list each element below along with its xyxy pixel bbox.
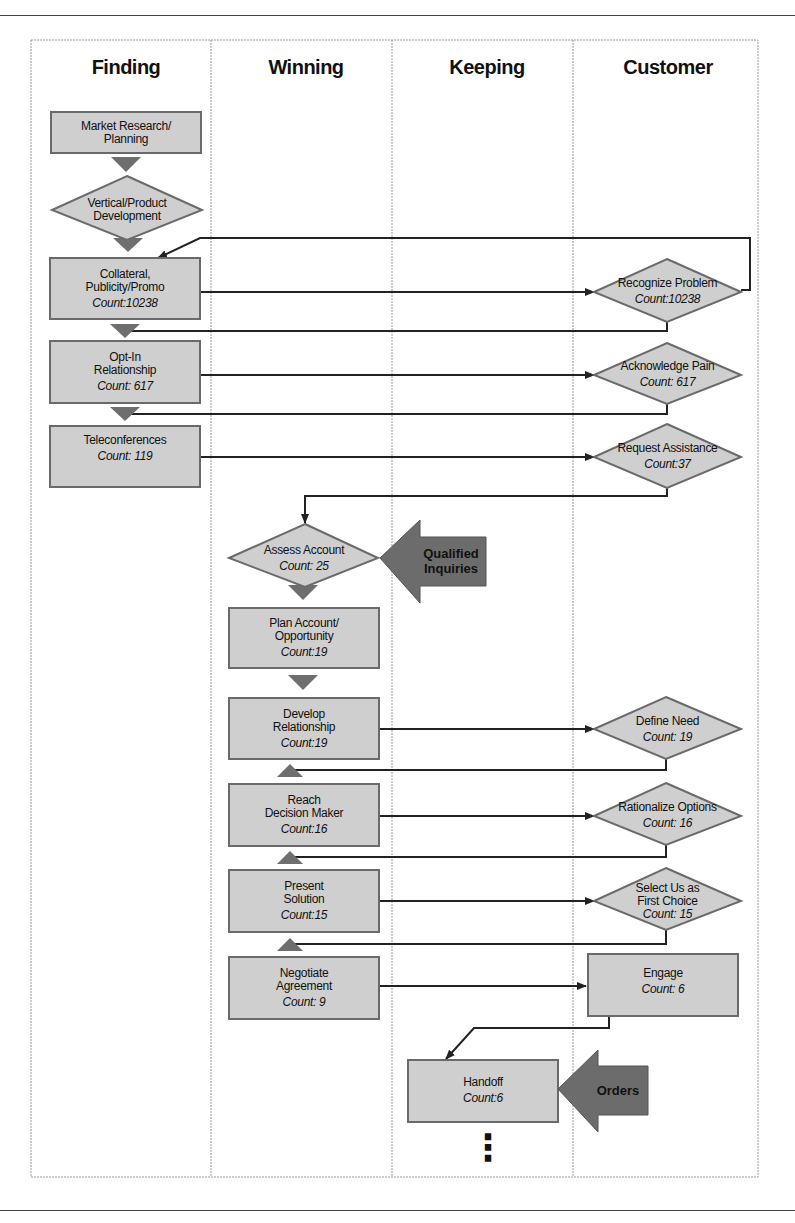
lane-title-finding: Finding: [36, 56, 216, 79]
count-value: Count:15: [281, 909, 327, 922]
count-value: Count: 617: [640, 376, 696, 389]
callout-orders-label: Orders: [590, 1083, 646, 1098]
lane-title-customer: Customer: [578, 56, 758, 79]
count-value: Count: 16: [643, 817, 692, 830]
count-value: Count:19: [281, 737, 327, 750]
count-value: Count:6: [463, 1092, 503, 1105]
count-value: Count:37: [644, 458, 690, 471]
node-define-need-label: Define Need Count: 19: [594, 712, 741, 746]
count-value: Count: 19: [643, 731, 692, 744]
node-recognize-problem-label: Recognize Problem Count:10238: [594, 274, 741, 308]
count-value: Count: 25: [279, 560, 328, 573]
node-vertical-product-label: Vertical/Product Development: [52, 193, 202, 227]
count-value: Count:19: [281, 646, 327, 659]
node-develop-relationship-label: Develop Relationship Count:19: [229, 698, 379, 759]
node-present-solution-label: Present Solution Count:15: [229, 870, 379, 932]
flow-define-to-reach: [290, 759, 666, 770]
node-request-assistance-label: Request Assistance Count:37: [594, 439, 741, 473]
node-market-research-label: Market Research/ Planning: [51, 112, 201, 153]
count-value: Count: 119: [98, 450, 153, 463]
triangle-down-icon: [111, 157, 141, 172]
node-rationalize-options-label: Rationalize Options Count: 16: [594, 798, 741, 832]
continuation-ellipsis-icon: ⋮: [470, 1128, 486, 1168]
node-opt-in-label: Opt-In Relationship Count: 617: [50, 341, 200, 403]
node-negotiate-agreement-label: Negotiate Agreement Count: 9: [229, 957, 379, 1019]
count-value: Count: 6: [642, 983, 685, 996]
node-acknowledge-pain-label: Acknowledge Pain Count: 617: [594, 357, 741, 391]
node-collateral-label: Collateral, Publicity/Promo Count:10238: [50, 258, 200, 319]
node-engage-label: Engage Count: 6: [588, 954, 738, 1008]
flow-request-to-assess: [305, 488, 667, 523]
node-select-us-label: Select Us as First Choice Count: 15: [594, 879, 741, 923]
flow-acknowledge-to-tele: [128, 404, 667, 414]
flow-engage-to-handoff: [446, 1016, 609, 1059]
node-assess-account-label: Assess Account Count: 25: [229, 541, 379, 575]
count-value: Count:10238: [92, 297, 157, 310]
node-reach-decision-maker-label: Reach Decision Maker Count:16: [229, 784, 379, 846]
count-value: Count: 9: [283, 996, 326, 1009]
node-teleconferences-label: Teleconferences Count: 119: [50, 426, 200, 470]
callout-qualified-inquiries-label: Qualified Inquiries: [418, 546, 484, 576]
count-value: Count:10238: [635, 293, 700, 306]
lane-title-keeping: Keeping: [397, 56, 577, 79]
node-plan-account-label: Plan Account/ Opportunity Count:19: [229, 608, 379, 668]
lane-title-winning: Winning: [216, 56, 396, 79]
flow-recognize-to-optin: [128, 322, 667, 331]
node-handoff-label: Handoff Count:6: [408, 1066, 558, 1114]
swimlane-diagram: [0, 0, 795, 1223]
count-value: Count:16: [281, 823, 327, 836]
count-value: Count: 617: [97, 380, 153, 393]
count-value: Count: 15: [643, 908, 692, 921]
triangle-down-icon: [288, 675, 318, 690]
